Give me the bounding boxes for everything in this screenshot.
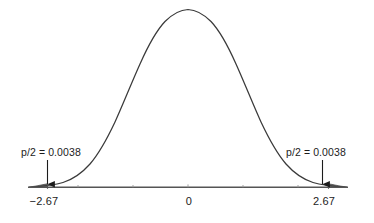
x-tick-label-zero: 0 [159, 195, 219, 207]
normal-curve [29, 10, 347, 188]
right-tail-probability-label: p/2 = 0.0038 [286, 146, 346, 158]
left-tail-probability-label: p/2 = 0.0038 [21, 146, 81, 158]
x-tick-label-positive-critical: 2.67 [294, 195, 354, 207]
distribution-plot [0, 0, 374, 223]
x-tick-label-negative-critical: −2.67 [14, 195, 74, 207]
normal-distribution-figure: p/2 = 0.0038 p/2 = 0.0038 −2.67 0 2.67 [0, 0, 374, 223]
